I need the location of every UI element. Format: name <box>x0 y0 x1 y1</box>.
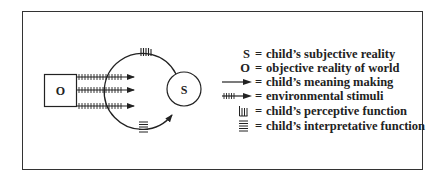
arrow-icon <box>221 75 253 89</box>
legend-symbol: S <box>243 47 250 61</box>
legend-equals: = <box>255 47 262 61</box>
legend-equals: = <box>255 75 262 89</box>
subject-label: S <box>181 83 188 97</box>
hatched-arrow-icon <box>221 89 253 103</box>
legend-equals: = <box>255 104 262 118</box>
legend-item-interpretative: = child’s interpretative function <box>224 119 424 133</box>
interpretative-function-marks <box>139 122 148 132</box>
legend-label: child’s interpretative function <box>266 119 425 133</box>
legend-item-stimuli: = environmental stimuli <box>224 89 424 103</box>
vertical-bars-icon <box>238 104 250 118</box>
horizontal-bars-icon <box>238 119 250 133</box>
legend-label: objective reality of world <box>266 61 399 75</box>
legend-label: child’s subjective reality <box>266 47 395 61</box>
legend-item-perceptive: = child’s perceptive function <box>224 104 424 118</box>
object-label: O <box>56 84 65 98</box>
legend-label: child’s perceptive function <box>266 104 407 118</box>
legend-label: environmental stimuli <box>266 89 383 103</box>
legend-label: child’s meaning making <box>266 75 393 89</box>
legend-equals: = <box>255 119 262 133</box>
environmental-stimuli-arrows <box>76 74 134 109</box>
legend-item-meaning-making: = child’s meaning making <box>224 75 424 89</box>
legend-equals: = <box>255 89 262 103</box>
perceptive-function-marks <box>141 48 151 56</box>
legend-item-o: O = objective reality of world <box>224 61 424 75</box>
legend-item-s: S = child’s subjective reality <box>224 47 424 61</box>
legend-symbol: O <box>240 61 250 75</box>
legend-equals: = <box>255 61 262 75</box>
